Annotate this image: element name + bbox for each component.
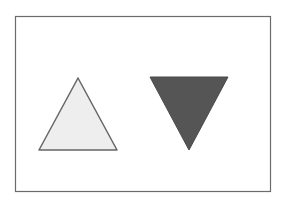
diagram-frame [16, 17, 271, 192]
diagram-canvas [0, 0, 284, 202]
